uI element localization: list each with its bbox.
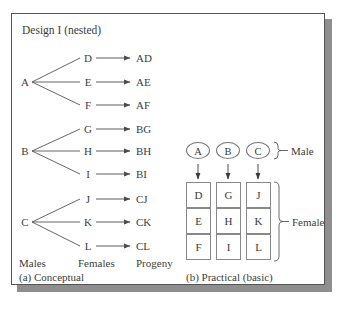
mating-arrows (198, 164, 258, 179)
female-cell-d: D (195, 189, 203, 201)
female-cell-g: G (225, 189, 233, 201)
panel-b-connectors (0, 0, 353, 315)
female-cell-i: I (227, 241, 231, 253)
female-cell-j: J (256, 189, 260, 201)
male-group-label: Male (291, 145, 314, 156)
figure-design-i-nested: Design I (nested) (0, 0, 353, 315)
female-cell-l: L (255, 241, 262, 253)
female-cell-h: H (225, 215, 233, 227)
female-cell-k: K (255, 215, 263, 227)
panel-b-caption: (b) Practical (basic) (186, 272, 273, 283)
female-brace (274, 182, 289, 261)
female-cell-e: E (195, 215, 202, 227)
female-cell-f: F (195, 241, 201, 253)
male-brace (274, 142, 288, 159)
female-group-label: Female (292, 216, 324, 227)
